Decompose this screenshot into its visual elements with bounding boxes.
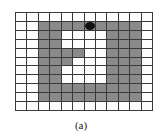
grid-cell-empty [16,58,27,67]
occupancy-grid [15,12,153,111]
grid-cell-empty [85,40,96,49]
grid-cell-filled [96,22,107,31]
grid-cell-empty [16,84,27,93]
grid-cell-empty [107,13,118,22]
grid-cell-empty [16,49,27,58]
figure-caption: (a) [0,119,162,131]
grid-cell-empty [142,84,153,93]
grid-cell-filled [130,49,141,58]
grid-cell-empty [16,22,27,31]
grid-cell-empty [16,102,27,111]
grid-cell-empty [73,40,84,49]
grid-cell-empty [96,102,107,111]
grid-cell-empty [62,66,73,75]
grid-cell-empty [142,49,153,58]
grid-cell-filled [96,93,107,102]
robot-marker-icon [85,22,95,30]
grid-cell-empty [96,66,107,75]
grid-cell-empty [62,75,73,84]
grid-cell-empty [119,102,130,111]
grid-cell-filled [39,49,50,58]
grid-cell-filled [85,93,96,102]
grid-cell-filled [119,22,130,31]
grid-cell-filled [39,40,50,49]
grid-cell-empty [16,31,27,40]
grid-cell-filled [119,49,130,58]
grid-cell-empty [85,31,96,40]
grid-cell-filled [107,22,118,31]
grid-cell-filled [130,31,141,40]
grid-cell-empty [73,13,84,22]
grid-cell-filled [130,40,141,49]
grid-cell-empty [96,58,107,67]
grid-cell-empty [85,13,96,22]
grid-cell-empty [16,40,27,49]
grid-cell-filled [107,58,118,67]
grid-cell-empty [142,22,153,31]
grid-cell-filled [85,84,96,93]
grid-cell-empty [62,13,73,22]
grid-cell-empty [27,75,38,84]
grid-cell-empty [73,75,84,84]
grid-cell-empty [27,66,38,75]
grid-cell-empty [142,66,153,75]
grid-cell-empty [107,102,118,111]
grid-cell-empty [130,13,141,22]
grid-cell-empty [27,84,38,93]
grid-cell-filled [130,22,141,31]
grid-cell-filled [39,75,50,84]
grid-cell-filled [85,22,96,31]
grid-cell-empty [142,13,153,22]
grid-cell-empty [85,75,96,84]
grid-cell-empty [73,58,84,67]
grid-cell-filled [119,40,130,49]
grid-cell-filled [50,75,61,84]
grid-cell-filled [130,84,141,93]
grid-cell-filled [73,22,84,31]
grid-cell-filled [119,66,130,75]
grid-cell-filled [39,66,50,75]
grid-cell-empty [16,13,27,22]
grid-cell-empty [85,49,96,58]
grid-cell-filled [119,75,130,84]
grid-cell-empty [27,13,38,22]
grid-cell-empty [73,31,84,40]
grid-cell-empty [39,13,50,22]
grid-cell-filled [73,49,84,58]
grid-cell-empty [130,102,141,111]
grid-cell-filled [119,84,130,93]
grid-cell-filled [107,75,118,84]
grid-cell-filled [130,93,141,102]
grid-cell-empty [142,58,153,67]
grid-cell-filled [107,31,118,40]
grid-cell-empty [142,102,153,111]
grid-cell-filled [73,93,84,102]
grid-cell-empty [96,49,107,58]
grid-cell-empty [96,75,107,84]
grid-cell-empty [85,66,96,75]
grid-cell-empty [142,75,153,84]
grid-cell-filled [107,40,118,49]
grid-cell-filled [62,93,73,102]
grid-cell-filled [130,66,141,75]
grid-cell-empty [16,75,27,84]
grid-cell-empty [27,40,38,49]
grid-cell-filled [50,49,61,58]
grid-cell-filled [62,84,73,93]
grid-cell-filled [119,93,130,102]
grid-cell-filled [39,84,50,93]
grid-cell-filled [62,22,73,31]
grid-cell-empty [85,58,96,67]
grid-cell-empty [73,66,84,75]
grid-cell-filled [130,75,141,84]
grid-cell-empty [27,93,38,102]
grid-cell-filled [73,84,84,93]
grid-cell-filled [50,58,61,67]
grid-cell-empty [16,93,27,102]
grid-cell-empty [96,40,107,49]
grid-cell-empty [142,40,153,49]
grid-cell-empty [50,13,61,22]
grid-cell-empty [27,22,38,31]
grid-cell-filled [39,58,50,67]
grid-cell-empty [62,40,73,49]
